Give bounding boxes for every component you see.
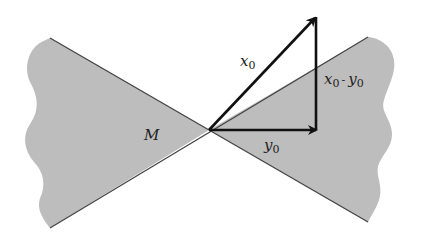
label-m: M: [143, 126, 160, 144]
cone-left-region: [25, 38, 209, 228]
diagram: M x0 y0 x0-y0: [0, 0, 421, 237]
diagram-svg: M x0 y0 x0-y0: [0, 0, 421, 237]
label-x0: x0: [240, 52, 255, 72]
